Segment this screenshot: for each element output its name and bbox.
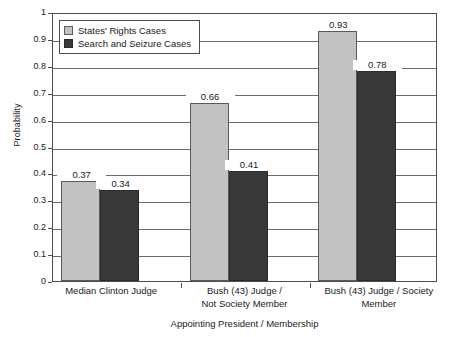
legend-label: Search and Seizure Cases (78, 38, 191, 49)
bar (61, 181, 100, 281)
legend-item: Search and Seizure Cases (64, 37, 191, 50)
y-axis-tick-label: 0.3 (22, 196, 46, 205)
y-axis-tick-label: 0.4 (22, 169, 46, 178)
y-axis-tick-label: 0.6 (22, 116, 46, 125)
bar-value-label: 0.34 (96, 179, 145, 189)
y-axis-tick-label: 0.7 (22, 89, 46, 98)
y-axis-tick-label: 0.8 (22, 62, 46, 71)
bar-value-label: 0.78 (353, 60, 402, 70)
y-axis-title: Probability (12, 75, 22, 175)
bar-value-label: 0.93 (314, 20, 363, 30)
y-axis-tick-label: 0.1 (22, 250, 46, 259)
y-axis-tick-label: 0.2 (22, 223, 46, 232)
x-axis-category-label: Bush (43) Judge / Not Society Member (169, 285, 319, 310)
bar-value-label: 0.66 (186, 92, 235, 102)
y-axis-tick-mark (48, 282, 52, 283)
y-axis-tick-label: 0.9 (22, 35, 46, 44)
bar-value-label: 0.41 (225, 160, 274, 170)
bar (318, 31, 357, 281)
legend: States' Rights CasesSearch and Seizure C… (59, 20, 200, 54)
x-axis-category-labels: Median Clinton JudgeBush (43) Judge / No… (52, 285, 437, 317)
legend-color-swatch (64, 39, 73, 48)
x-axis-title: Appointing President / Membership (52, 318, 437, 329)
bar (100, 190, 139, 281)
bar (190, 103, 229, 281)
legend-label: States' Rights Cases (78, 25, 166, 36)
y-axis-tick-label: 0.5 (22, 143, 46, 152)
legend-item: States' Rights Cases (64, 24, 191, 37)
y-axis-tick-label: 1 (22, 8, 46, 17)
bar-chart: Probability 10.90.80.70.60.50.40.30.20.1… (0, 0, 453, 337)
bar (229, 171, 268, 281)
x-axis-category-label: Median Clinton Judge (36, 285, 186, 298)
legend-color-swatch (64, 26, 73, 35)
x-axis-category-label: Bush (43) Judge / Society Member (304, 285, 453, 310)
bar (357, 71, 396, 281)
